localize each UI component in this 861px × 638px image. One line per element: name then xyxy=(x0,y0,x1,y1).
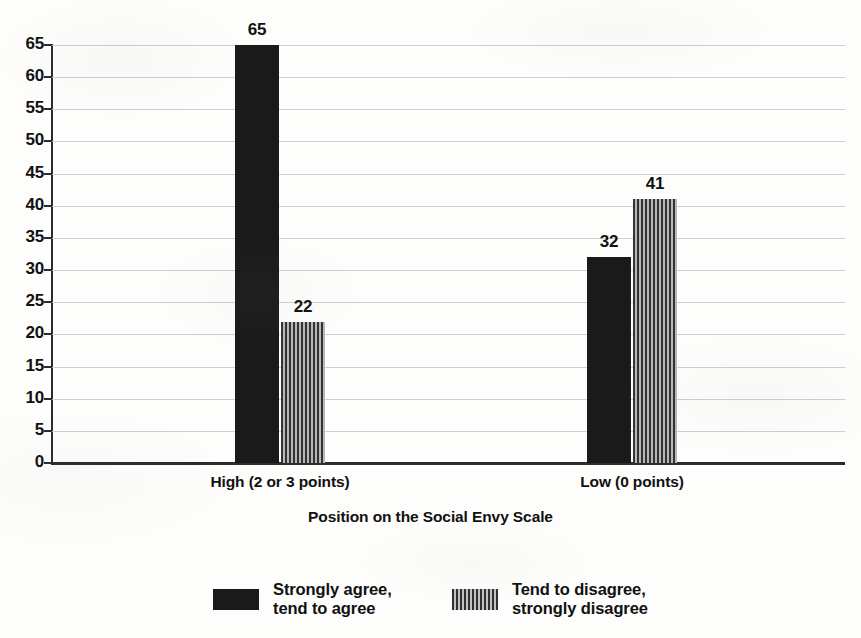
y-axis-tick-label: 55 xyxy=(0,98,44,118)
legend-item[interactable]: Strongly agree, tend to agree xyxy=(213,580,392,619)
legend-item[interactable]: Tend to disagree, strongly disagree xyxy=(452,580,648,619)
chart-legend: Strongly agree, tend to agreeTend to dis… xyxy=(0,576,861,638)
legend-label: Tend to disagree, strongly disagree xyxy=(512,580,648,619)
y-axis-tick-label: 0 xyxy=(0,452,44,472)
bar-chart: 05101520253035404550556065 65223241 High… xyxy=(0,0,861,638)
y-axis-tick-label: 5 xyxy=(0,420,44,440)
y-axis-tick-label: 15 xyxy=(0,356,44,376)
plot-area: 65223241 xyxy=(52,45,845,463)
gridline xyxy=(52,109,845,110)
gridline xyxy=(52,141,845,142)
y-axis-tick-label: 25 xyxy=(0,291,44,311)
legend-swatch-hatch-icon xyxy=(452,589,498,610)
bar-value-label: 65 xyxy=(217,20,297,40)
gridline xyxy=(52,174,845,175)
bar xyxy=(281,322,325,463)
legend-swatch-solid-icon xyxy=(213,589,259,610)
y-axis-labels: 05101520253035404550556065 xyxy=(0,0,44,638)
x-axis-category-label: High (2 or 3 points) xyxy=(150,473,410,491)
bar-value-label: 22 xyxy=(263,297,343,317)
gridline xyxy=(52,238,845,239)
gridline xyxy=(52,431,845,432)
bar-value-label: 41 xyxy=(615,174,695,194)
bar xyxy=(633,199,677,463)
y-axis-tick-label: 60 xyxy=(0,66,44,86)
x-axis-title: Position on the Social Envy Scale xyxy=(0,508,861,526)
x-axis-category-label: Low (0 points) xyxy=(502,473,762,491)
bar xyxy=(235,45,279,463)
bar xyxy=(587,257,631,463)
gridline xyxy=(52,206,845,207)
gridline xyxy=(52,77,845,78)
gridline xyxy=(52,367,845,368)
y-axis-tick-label: 30 xyxy=(0,259,44,279)
y-axis-tick-label: 35 xyxy=(0,227,44,247)
gridline xyxy=(52,302,845,303)
gridline xyxy=(52,399,845,400)
y-axis-tick-label: 40 xyxy=(0,195,44,215)
y-axis-tick-label: 65 xyxy=(0,34,44,54)
gridline xyxy=(52,334,845,335)
y-axis-tick-label: 20 xyxy=(0,323,44,343)
legend-label: Strongly agree, tend to agree xyxy=(273,580,392,619)
y-axis-tick-label: 45 xyxy=(0,163,44,183)
gridline xyxy=(52,45,845,46)
y-axis-tick-label: 50 xyxy=(0,130,44,150)
y-axis-tick-label: 10 xyxy=(0,388,44,408)
gridline xyxy=(52,270,845,271)
